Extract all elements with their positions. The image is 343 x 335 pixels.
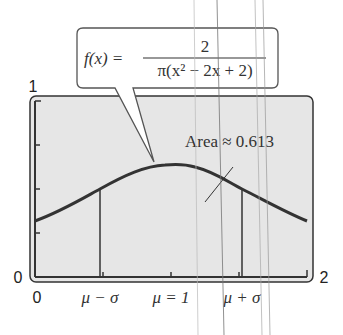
y-max-label: 1 bbox=[29, 78, 38, 95]
formula-denominator: π(x² − 2x + 2) bbox=[157, 61, 252, 80]
chart: f(x) = 2 π(x² − 2x + 2) Area ≈ 0.613 1 0… bbox=[0, 0, 343, 335]
formula-lhs: f(x) = bbox=[84, 49, 123, 68]
area-annotation: Area ≈ 0.613 bbox=[185, 132, 274, 151]
plot-panel bbox=[30, 96, 313, 282]
x-label-mu-minus-sigma: μ − σ bbox=[81, 288, 120, 307]
x-label-mu-plus-sigma: μ + σ bbox=[223, 288, 262, 307]
x-label-mu: μ = 1 bbox=[151, 288, 189, 307]
x-zero-label: 0 bbox=[33, 289, 42, 306]
x-max-label: 2 bbox=[320, 269, 329, 286]
y-min-label: 0 bbox=[14, 269, 23, 286]
formula-numerator: 2 bbox=[201, 37, 210, 56]
